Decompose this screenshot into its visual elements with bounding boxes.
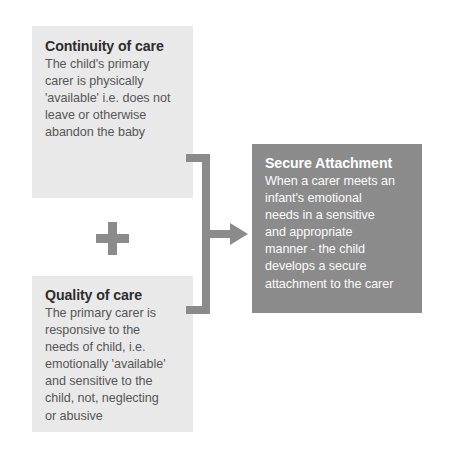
box-secure-title: Secure Attachment [265,155,410,172]
box-secure-body: When a carer meets an infant's emotional… [265,173,410,293]
box-continuity-title: Continuity of care [45,38,180,55]
box-continuity-body: The child's primary carer is physically … [45,56,180,141]
box-quality-body: The primary carer is responsive to the n… [45,305,180,425]
box-secure-attachment: Secure Attachment When a carer meets an … [252,144,422,313]
box-continuity-of-care: Continuity of care The child's primary c… [32,26,193,198]
box-quality-title: Quality of care [45,287,180,304]
attachment-diagram: Continuity of care The child's primary c… [0,0,449,462]
plus-icon [96,222,129,255]
bracket-arrow-icon [186,150,256,320]
arrow-stem [206,230,232,238]
arrow-head [230,223,248,245]
plus-icon-vertical-bar [108,222,117,255]
box-quality-of-care: Quality of care The primary carer is res… [32,276,193,432]
